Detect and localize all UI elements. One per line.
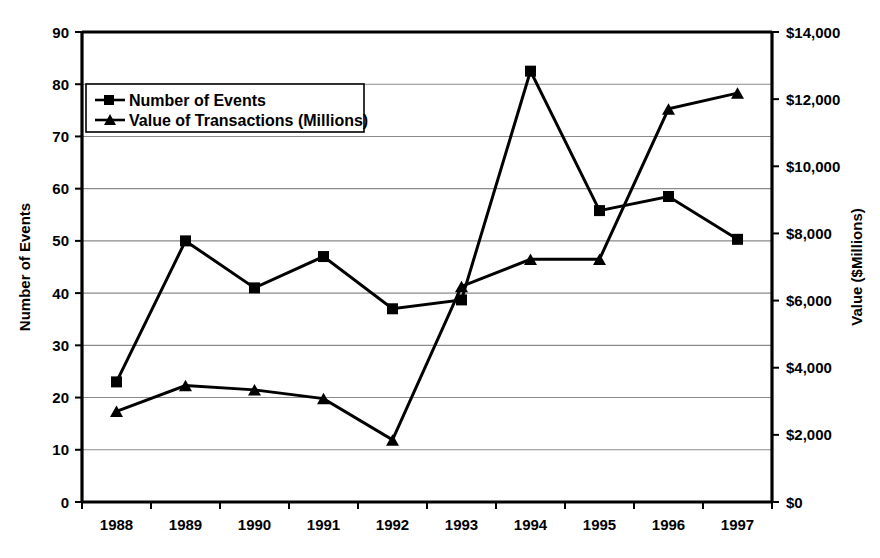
legend-entry-value-of-transactions: Value of Transactions (Millions) xyxy=(95,112,368,129)
x-axis-category-label: 1995 xyxy=(583,516,616,533)
right-axis-title: Value ($Millions) xyxy=(848,208,865,326)
left-axis-tick-label: 20 xyxy=(52,389,69,406)
square-data-marker xyxy=(111,376,122,387)
x-axis-category-label: 1994 xyxy=(514,516,548,533)
left-axis-tick-label: 90 xyxy=(52,24,69,41)
right-axis-tick-label: $2,000 xyxy=(786,426,832,443)
left-axis-tick-label: 60 xyxy=(52,180,69,197)
right-axis-tick-label: $4,000 xyxy=(786,359,832,376)
square-data-marker xyxy=(387,303,398,314)
square-data-marker xyxy=(594,205,605,216)
left-axis-tick-label: 70 xyxy=(52,128,69,145)
right-axis-tick-label: $6,000 xyxy=(786,292,832,309)
line-chart: 0102030405060708090 $0$2,000$4,000$6,000… xyxy=(0,0,880,558)
square-data-marker xyxy=(732,234,743,245)
square-data-marker xyxy=(318,251,329,262)
right-axis-tick-label: $12,000 xyxy=(786,91,840,108)
square-data-marker xyxy=(663,191,674,202)
x-axis-category-label: 1988 xyxy=(100,516,133,533)
left-axis-title: Number of Events xyxy=(16,203,33,331)
square-marker-icon xyxy=(104,95,114,105)
legend-label-number-of-events: Number of Events xyxy=(129,92,266,109)
right-axis-tick-label: $14,000 xyxy=(786,24,840,41)
chart-legend: Number of Events Value of Transactions (… xyxy=(86,84,368,132)
square-data-marker xyxy=(249,282,260,293)
left-axis-tick-label: 80 xyxy=(52,76,69,93)
right-axis-tick-label: $10,000 xyxy=(786,158,840,175)
left-axis-tick-label: 0 xyxy=(61,494,69,511)
x-axis-category-label: 1990 xyxy=(238,516,271,533)
x-axis-category-label: 1991 xyxy=(307,516,340,533)
left-axis-tick-label: 50 xyxy=(52,232,69,249)
x-axis-category-label: 1992 xyxy=(376,516,409,533)
square-data-marker xyxy=(525,66,536,77)
x-axis-category-label: 1989 xyxy=(169,516,202,533)
x-axis-category-label: 1996 xyxy=(652,516,685,533)
x-axis-category-label: 1993 xyxy=(445,516,478,533)
x-axis-category-label: 1997 xyxy=(721,516,754,533)
legend-label-value-of-transactions: Value of Transactions (Millions) xyxy=(129,112,368,129)
square-data-marker xyxy=(180,235,191,246)
left-axis-tick-label: 10 xyxy=(52,441,69,458)
left-axis-tick-label: 30 xyxy=(52,337,69,354)
left-axis-tick-label: 40 xyxy=(52,285,69,302)
right-axis-tick-label: $8,000 xyxy=(786,225,832,242)
right-axis-tick-label: $0 xyxy=(786,494,803,511)
chart-container: 0102030405060708090 $0$2,000$4,000$6,000… xyxy=(0,0,880,558)
